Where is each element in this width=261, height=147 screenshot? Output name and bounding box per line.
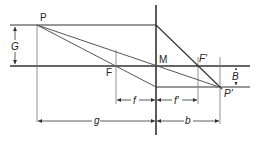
ray-central xyxy=(37,25,222,88)
label-G: G xyxy=(11,41,19,52)
label-P: P xyxy=(40,12,47,23)
label-M: M xyxy=(159,54,167,65)
label-Pprime: P' xyxy=(224,88,234,99)
label-B: B xyxy=(232,71,239,82)
label-b: b xyxy=(185,115,191,126)
label-Fprime: F' xyxy=(199,53,208,64)
label-g: g xyxy=(94,115,100,126)
label-F: F xyxy=(106,67,112,78)
lens-diagram: P G F M F' B P' f f' g b xyxy=(0,0,261,147)
ray-focal xyxy=(37,25,156,87)
